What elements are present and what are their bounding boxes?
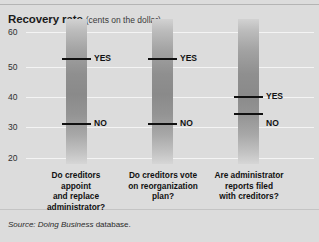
marker-yes-label-bar-3: YES bbox=[266, 91, 283, 101]
recovery-rate-chart-figure: Recovery rate(cents on the dollar) 60 50… bbox=[0, 0, 319, 242]
marker-no-label-bar-1: NO bbox=[94, 118, 107, 128]
marker-yes-bar-1 bbox=[62, 58, 91, 60]
category-label-line: and replace bbox=[30, 191, 122, 202]
category-label-line: appoint bbox=[30, 181, 122, 192]
category-label-creditors-vote: Do creditors vote on reorganization plan… bbox=[117, 170, 209, 202]
marker-yes-label-bar-1: YES bbox=[94, 53, 111, 63]
source-prefix: Source: bbox=[8, 220, 36, 229]
marker-yes-label-bar-2: YES bbox=[180, 53, 197, 63]
marker-yes-bar-2 bbox=[148, 58, 177, 60]
source-suffix: database. bbox=[96, 220, 131, 229]
category-label-line: plan? bbox=[117, 191, 209, 202]
category-label-administrator-reports: Are administrator reports filed with cre… bbox=[203, 170, 295, 202]
category-label-line: Do creditors bbox=[30, 170, 122, 181]
category-label-creditors-appoint: Do creditors appoint and replace adminis… bbox=[30, 170, 122, 212]
ytick-label-20: 20 bbox=[8, 153, 24, 163]
ytick-label-40: 40 bbox=[8, 92, 24, 102]
ytick-label-50: 50 bbox=[8, 62, 24, 72]
category-label-line: administrator? bbox=[30, 202, 122, 213]
bar-creditors-vote bbox=[152, 19, 173, 164]
marker-no-bar-3 bbox=[234, 113, 263, 115]
marker-no-bar-1 bbox=[62, 123, 91, 125]
ytick-label-60: 60 bbox=[8, 27, 24, 37]
category-label-line: with creditors? bbox=[203, 191, 295, 202]
category-label-line: Do creditors vote bbox=[117, 170, 209, 181]
marker-no-label-bar-3: NO bbox=[266, 118, 279, 128]
marker-no-label-bar-2: NO bbox=[180, 118, 193, 128]
category-label-line: on reorganization bbox=[117, 181, 209, 192]
source-note: Source: Doing Business database. bbox=[8, 220, 131, 229]
bar-administrator-reports bbox=[238, 19, 259, 164]
ytick-label-30: 30 bbox=[8, 122, 24, 132]
plot-area: 60 50 40 30 20 YES NO YES NO YES NO Do c… bbox=[0, 0, 319, 242]
category-label-line: reports filed bbox=[203, 181, 295, 192]
source-database-name: Doing Business bbox=[38, 220, 94, 229]
category-label-line: Are administrator bbox=[203, 170, 295, 181]
bar-creditors-appoint bbox=[66, 19, 87, 164]
marker-yes-bar-3 bbox=[234, 96, 263, 98]
marker-no-bar-2 bbox=[148, 123, 177, 125]
